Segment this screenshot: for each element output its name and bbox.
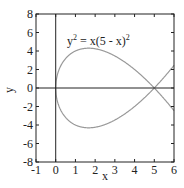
y-tick-label: 8 — [27, 7, 33, 21]
x-tick-label: 6 — [171, 163, 177, 177]
x-axis-label: x — [102, 169, 108, 183]
y-axis-label: y — [2, 87, 16, 93]
y-tick-label: 2 — [27, 63, 33, 77]
y-tick-label: -2 — [23, 100, 33, 114]
equation-annotation: y2 = x(5 - x)2 — [67, 33, 130, 48]
y-tick-label: 4 — [27, 44, 33, 58]
x-tick-label: 4 — [132, 163, 138, 177]
chart-canvas: -10123456 -8-6-4-202468 x y y2 = x(5 - x… — [0, 0, 184, 188]
x-tick-label: 3 — [112, 163, 118, 177]
y-tick-label: -8 — [23, 155, 33, 169]
x-tick-label: 1 — [72, 163, 78, 177]
y-tick-label: -6 — [23, 137, 33, 151]
lower-branch-curve — [56, 65, 174, 127]
x-tick-label: 5 — [151, 163, 157, 177]
x-tick-label: 0 — [53, 163, 59, 177]
y-tick-label: -4 — [23, 118, 33, 132]
upper-branch-curve — [56, 48, 174, 110]
y-tick-label: 6 — [27, 26, 33, 40]
x-tick-label: 2 — [92, 163, 98, 177]
y-tick-label: 0 — [27, 81, 33, 95]
